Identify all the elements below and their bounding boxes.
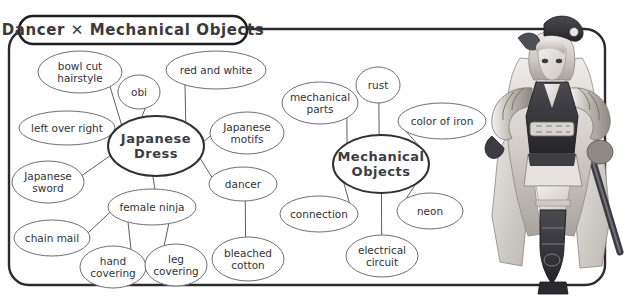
leaf-label-obi: obi — [131, 86, 147, 98]
leaf-label-left-over-right: left over right — [31, 122, 103, 134]
mindmap-canvas: bowl cuthairstyleobired and whiteleft ov… — [0, 0, 630, 300]
leaf-label-electrical-circuit: electrical — [358, 244, 406, 256]
leaf-node-red-and-white[interactable]: red and white — [166, 51, 266, 89]
leaf-node-mechanical-parts[interactable]: mechanicalparts — [282, 82, 358, 124]
leaf-node-neon[interactable]: neon — [397, 193, 463, 229]
leaf-label-bowl-cut-hairstyle: bowl cut — [58, 60, 102, 72]
leaf-node-dancer[interactable]: dancer — [209, 167, 277, 201]
leaf-node-bleached-cotton[interactable]: bleachedcotton — [212, 237, 284, 281]
leaf-node-color-of-iron[interactable]: color of iron — [398, 103, 486, 139]
leaf-label-mechanical-parts: mechanical — [290, 91, 350, 103]
leaf-label-electrical-circuit: circuit — [366, 256, 398, 268]
mindmap-svg: bowl cuthairstyleobired and whiteleft ov… — [0, 0, 630, 300]
leaf-label-leg-covering: covering — [153, 265, 198, 277]
leaf-label-japanese-motifs: Japanese — [222, 121, 271, 133]
hub-label-japanese-dress: Japanese — [120, 131, 191, 146]
leaf-label-japanese-sword: sword — [32, 182, 63, 194]
leaf-label-hand-covering: covering — [90, 267, 135, 279]
hub-label-mechanical-objects: Objects — [352, 164, 411, 179]
leaf-node-female-ninja[interactable]: female ninja — [108, 189, 196, 225]
leaf-node-left-over-right[interactable]: left over right — [19, 111, 115, 145]
leaf-node-connection[interactable]: connection — [280, 196, 358, 232]
leaf-node-electrical-circuit[interactable]: electricalcircuit — [346, 235, 418, 277]
leaf-label-leg-covering: leg — [168, 253, 184, 265]
leaf-label-neon: neon — [417, 205, 443, 217]
leaf-label-mechanical-parts: parts — [306, 103, 333, 115]
hub-label-mechanical-objects: Mechanical — [337, 149, 424, 164]
leaf-node-rust[interactable]: rust — [356, 67, 400, 103]
leaf-node-obi[interactable]: obi — [118, 75, 160, 109]
leaf-label-japanese-sword: Japanese — [23, 170, 72, 182]
panel-title: Dancer ✕ Mechanical Objects — [2, 16, 265, 44]
leaf-label-dancer: dancer — [225, 178, 262, 190]
leaf-label-bleached-cotton: cotton — [231, 259, 265, 271]
leaf-node-chain-mail[interactable]: chain mail — [14, 220, 90, 256]
leaf-node-bowl-cut-hairstyle[interactable]: bowl cuthairstyle — [38, 51, 122, 93]
hub-node-japanese-dress[interactable]: JapaneseDress — [108, 116, 204, 176]
leaf-label-chain-mail: chain mail — [25, 232, 79, 244]
leaf-node-leg-covering[interactable]: legcovering — [145, 244, 207, 286]
panel-title-text: Dancer ✕ Mechanical Objects — [2, 21, 265, 39]
leaf-label-connection: connection — [290, 208, 348, 220]
leaf-label-color-of-iron: color of iron — [411, 115, 474, 127]
hub-node-mechanical-objects[interactable]: MechanicalObjects — [333, 135, 429, 193]
hub-label-japanese-dress: Dress — [134, 146, 178, 161]
leaf-label-female-ninja: female ninja — [119, 201, 184, 213]
leaf-node-hand-covering[interactable]: handcovering — [80, 246, 146, 288]
leaf-label-bleached-cotton: bleached — [224, 247, 272, 259]
leaf-label-red-and-white: red and white — [180, 64, 252, 76]
leaf-node-japanese-motifs[interactable]: Japanesemotifs — [210, 112, 284, 154]
leaf-label-japanese-motifs: motifs — [231, 133, 264, 145]
leaf-node-japanese-sword[interactable]: Japanesesword — [12, 161, 84, 203]
leaf-label-rust: rust — [368, 79, 389, 91]
leaf-label-bowl-cut-hairstyle: hairstyle — [57, 72, 103, 84]
leaf-label-hand-covering: hand — [100, 255, 126, 267]
